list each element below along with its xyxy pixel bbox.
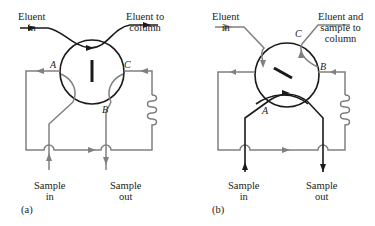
- panel-caption-b: (b): [212, 204, 224, 215]
- eluent-out-label-b: Eluent and sample to column: [318, 11, 363, 44]
- panel-b-diagram: [215, 24, 350, 172]
- eluent-out-line1: Eluent to: [126, 11, 164, 22]
- sample-in-line1: Sample: [34, 180, 66, 191]
- sample-out-label-b: Sample out: [306, 180, 338, 202]
- panel-a-diagram: [20, 22, 158, 170]
- sample-in-label-a: Sample in: [34, 180, 66, 202]
- sample-out-line1: Sample: [306, 180, 338, 191]
- eluent-in-label-a: Eluent in: [18, 11, 45, 33]
- panel-caption-a: (a): [21, 204, 33, 215]
- eluent-in-line1: Eluent: [212, 11, 239, 22]
- eluent-out-line2: column: [126, 22, 164, 33]
- eluent-out-line2: sample to: [318, 22, 363, 33]
- flow-arrow-icon: [330, 69, 336, 75]
- rotor-indicator-icon: [274, 68, 292, 78]
- port-a-label-a: A: [50, 59, 56, 70]
- port-c-label-a: C: [124, 59, 131, 70]
- sample-in-label-b: Sample in: [228, 180, 260, 202]
- sample-in-line1: Sample: [228, 180, 260, 191]
- eluent-in-label-b: Eluent in: [212, 11, 239, 33]
- sample-in-line2: in: [228, 191, 260, 202]
- flow-arrow-icon: [86, 45, 94, 51]
- flow-arrow-icon: [242, 162, 248, 170]
- eluent-in-line2: in: [212, 22, 239, 33]
- flow-arrow-icon: [320, 164, 326, 172]
- flow-arrow-icon: [88, 147, 96, 153]
- eluent-in-line1: Eluent: [18, 11, 45, 22]
- port-a-label-b: A: [262, 105, 268, 116]
- port-b-label-b: B: [320, 61, 326, 72]
- port-b-label-a: B: [102, 104, 108, 115]
- eluent-out-line1: Eluent and: [318, 11, 363, 22]
- port-c-label-b: C: [295, 28, 302, 39]
- flow-arrow-icon: [282, 147, 290, 153]
- sample-out-line1: Sample: [110, 180, 142, 191]
- eluent-out-label-a: Eluent to column: [126, 11, 164, 33]
- flow-arrow-icon: [36, 68, 44, 74]
- flow-arrow-icon: [103, 157, 109, 165]
- sample-out-line2: out: [306, 191, 338, 202]
- flow-arrow-icon: [140, 68, 148, 74]
- flow-arrow-icon: [260, 60, 266, 68]
- sample-out-label-a: Sample out: [110, 180, 142, 202]
- flow-arrow-icon: [230, 69, 236, 75]
- eluent-in-line2: in: [18, 22, 45, 33]
- sample-out-line2: out: [110, 191, 142, 202]
- sample-in-line2: in: [34, 191, 66, 202]
- flow-arrow-icon: [46, 153, 52, 161]
- eluent-out-line3: column: [318, 33, 363, 44]
